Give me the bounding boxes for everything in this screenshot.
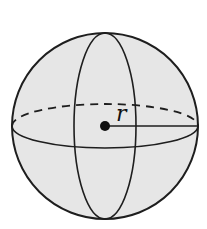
radius-label: r xyxy=(116,101,128,126)
center-point xyxy=(100,121,110,131)
sphere-svg: r xyxy=(0,0,207,229)
sphere-diagram: r xyxy=(0,0,207,229)
